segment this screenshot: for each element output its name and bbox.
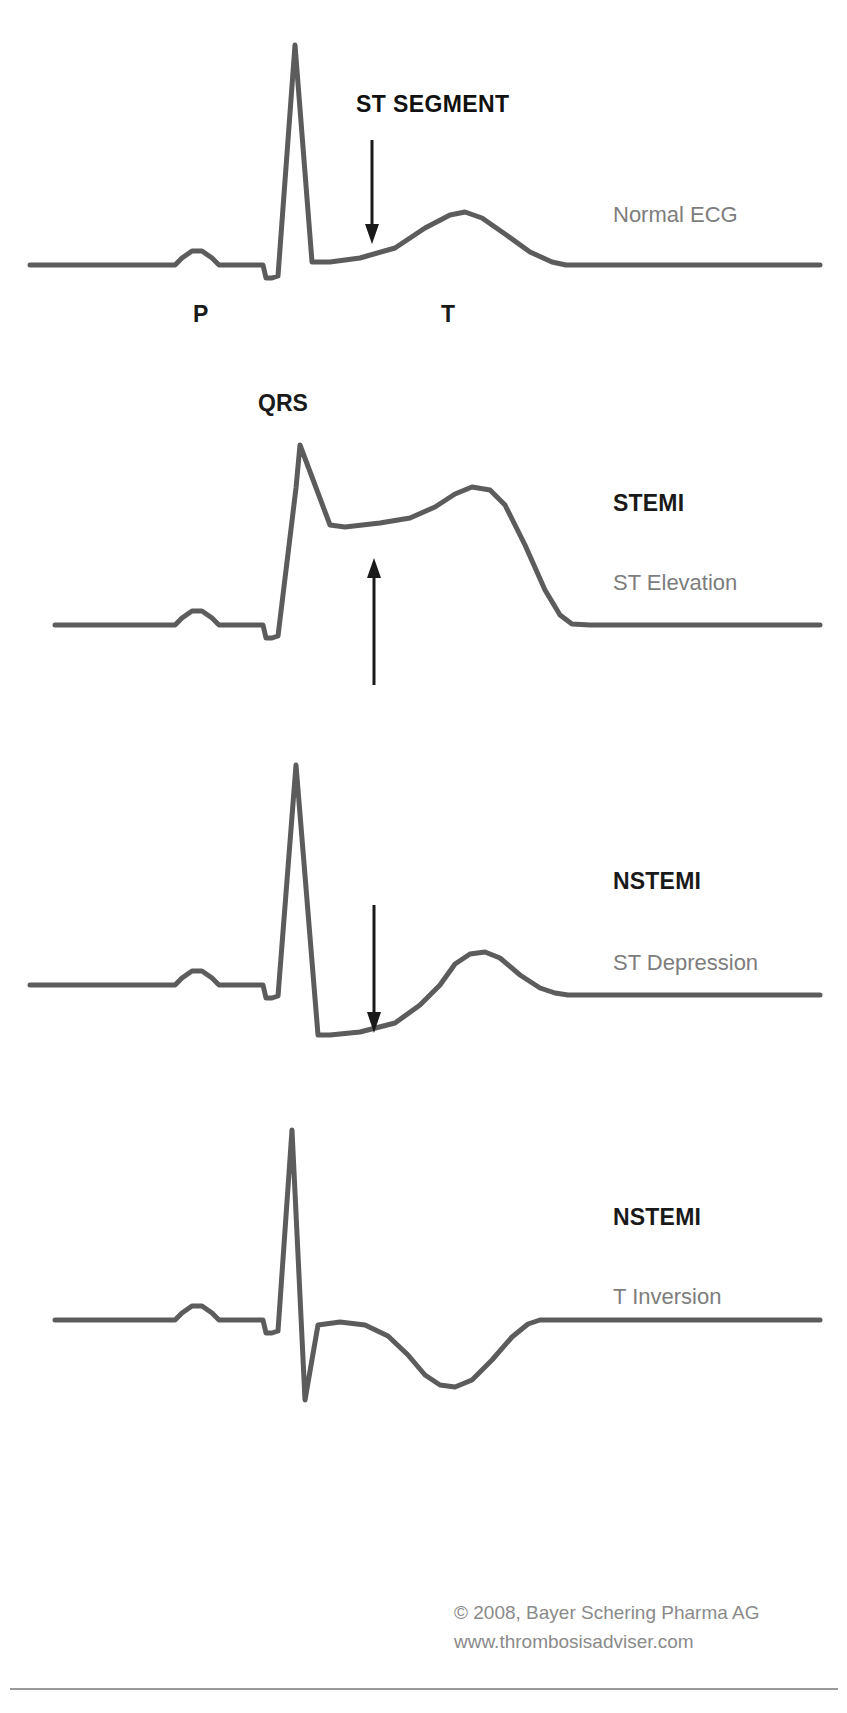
- website-text: www.thrombosisadviser.com: [454, 1627, 760, 1656]
- st-elevation-arrow-up: [367, 558, 381, 685]
- panel-diagnosis-stemi: STEMI: [613, 492, 684, 515]
- panel-label-normal-ecg: Normal ECG: [613, 204, 738, 226]
- footer-divider: [10, 1688, 838, 1690]
- ecg-figure: ST SEGMENT P T QRS Normal ECG STEMI ST E…: [0, 0, 847, 1713]
- panel-label-st-elevation: ST Elevation: [613, 572, 737, 594]
- panel-nstemi-depression: NSTEMI ST Depression: [0, 760, 847, 1100]
- ecg-trace-nstemi-t-inversion: [0, 1100, 847, 1460]
- copyright-text: © 2008, Bayer Schering Pharma AG: [454, 1598, 760, 1627]
- footer-copyright-block: © 2008, Bayer Schering Pharma AG www.thr…: [454, 1598, 760, 1656]
- panel-diagnosis-nstemi-depression: NSTEMI: [613, 870, 701, 893]
- panel-stemi-elevation: STEMI ST Elevation: [0, 420, 847, 760]
- wave-label-qrs: QRS: [258, 392, 308, 415]
- wave-label-p: P: [193, 303, 208, 326]
- st-segment-arrow-down: [365, 140, 379, 244]
- st-segment-title: ST SEGMENT: [356, 93, 510, 116]
- panel-label-st-depression: ST Depression: [613, 952, 758, 974]
- wave-label-t: T: [441, 303, 455, 326]
- ecg-trace-nstemi-depression: [0, 760, 847, 1100]
- panel-nstemi-t-inversion: NSTEMI T Inversion: [0, 1100, 847, 1460]
- st-depression-arrow-down: [367, 905, 381, 1033]
- panel-label-t-inversion: T Inversion: [613, 1286, 721, 1308]
- panel-normal-ecg: ST SEGMENT P T QRS Normal ECG: [0, 0, 847, 420]
- panel-diagnosis-nstemi-t-inversion: NSTEMI: [613, 1206, 701, 1229]
